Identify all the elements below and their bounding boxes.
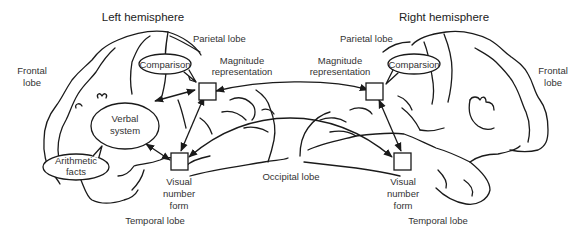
diagram-canvas: Comparison Comparsion Verbal system Arit… xyxy=(0,0,583,232)
occipital-lobe-label: Occipital lobe xyxy=(262,171,319,182)
comparison-bubble-left: Comparison xyxy=(139,54,196,82)
comparison-bubble-right: Comparsion xyxy=(386,54,440,84)
comparison-label-right: Comparsion xyxy=(388,59,439,70)
arrow-magnitude-left-right xyxy=(216,82,368,91)
left-hemisphere-title: Left hemisphere xyxy=(102,11,184,23)
vnf-label-left-2: number xyxy=(163,188,195,199)
frontal-lobe-label-left-2: lobe xyxy=(23,77,41,88)
verbal-label-2: system xyxy=(110,125,140,136)
temporal-lobe-label-right: Temporal lobe xyxy=(408,215,468,226)
verbal-system-bubble: Verbal system xyxy=(91,103,159,149)
arrow-vnf-left-right xyxy=(189,118,392,157)
verbal-label-1: Verbal xyxy=(112,113,139,124)
magnitude-box-left xyxy=(199,83,216,100)
magnitude-label-left-1: Magnitude xyxy=(220,55,264,66)
frontal-lobe-label-right-1: Frontal xyxy=(538,65,568,76)
frontal-lobe-label-left-1: Frontal xyxy=(17,65,47,76)
magnitude-label-left-2: representation xyxy=(212,66,273,77)
vnf-label-left-3: form xyxy=(170,200,189,211)
vnf-label-right-3: form xyxy=(394,200,413,211)
arithmetic-label-2: facts xyxy=(66,166,86,177)
vnf-label-right-1: Visual xyxy=(390,176,416,187)
magnitude-label-right-2: representation xyxy=(310,66,371,77)
frontal-lobe-label-right-2: lobe xyxy=(544,77,562,88)
magnitude-label-right-1: Magnitude xyxy=(318,55,362,66)
vnf-label-right-2: number xyxy=(387,188,419,199)
temporal-lobe-label-left: Temporal lobe xyxy=(125,215,185,226)
arrow-verbal-vnf-left xyxy=(146,144,170,160)
parietal-lobe-label-right: Parietal lobe xyxy=(340,33,393,44)
arithmetic-facts-bubble: Arithmetic facts xyxy=(43,146,109,180)
vnf-box-right xyxy=(394,153,411,170)
vnf-label-left-1: Visual xyxy=(166,176,192,187)
magnitude-box-right xyxy=(366,83,383,100)
parietal-lobe-label-left: Parietal lobe xyxy=(193,33,246,44)
arrow-magnitude-vnf-right xyxy=(379,100,401,151)
comparison-label-left: Comparison xyxy=(139,59,190,70)
arithmetic-label-1: Arithmetic xyxy=(55,155,97,166)
right-hemisphere-title: Right hemisphere xyxy=(399,11,489,23)
vnf-box-left xyxy=(171,153,188,170)
arrow-verbal-magnitude-left xyxy=(155,90,195,101)
triple-code-model-diagram: Comparison Comparsion Verbal system Arit… xyxy=(0,0,583,232)
